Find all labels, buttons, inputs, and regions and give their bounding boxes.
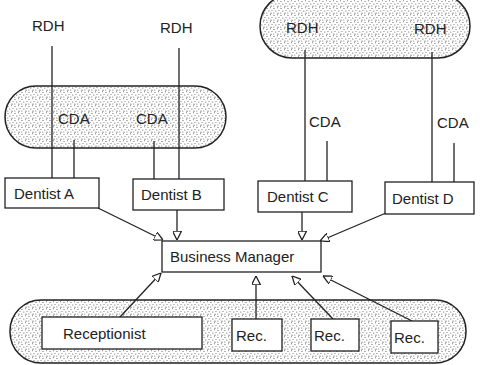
dentist-d-box: Dentist D	[385, 182, 474, 214]
rec-2-label: Rec.	[314, 327, 345, 344]
cda-label-b: CDA	[136, 110, 168, 127]
cda-pool-shading	[5, 86, 226, 148]
rec-2-box: Rec.	[311, 319, 359, 351]
rec-1-box: Rec.	[232, 319, 282, 351]
rdh-label-b: RDH	[160, 19, 193, 36]
dentist-a-box: Dentist A	[5, 178, 99, 208]
dentist-a-label: Dentist A	[14, 185, 74, 202]
dentist-c-box: Dentist C	[258, 181, 352, 212]
cda-label-c: CDA	[309, 113, 341, 130]
rdh-label-a: RDH	[32, 17, 65, 34]
dentist-c-label: Dentist C	[267, 188, 329, 205]
dentist-d-label: Dentist D	[392, 190, 454, 207]
cda-label-d: CDA	[437, 114, 469, 131]
business-manager-box: Business Manager	[162, 241, 321, 272]
rec-3-label: Rec.	[394, 329, 425, 346]
receptionist-label: Receptionist	[63, 325, 146, 342]
business-manager-label: Business Manager	[170, 248, 294, 265]
rec-1-label: Rec.	[236, 327, 267, 344]
cda-label-a: CDA	[58, 110, 90, 127]
rdh-label-c: RDH	[286, 19, 319, 36]
rdh-label-d: RDH	[414, 20, 447, 37]
receptionist-box: Receptionist	[42, 317, 202, 349]
dentist-b-label: Dentist B	[141, 186, 202, 203]
rec-3-box: Rec.	[391, 321, 438, 353]
org-diagram: RDH RDH RDH RDH CDA CDA CDA CDA Dentist …	[0, 0, 484, 365]
dentist-b-box: Dentist B	[133, 179, 224, 210]
